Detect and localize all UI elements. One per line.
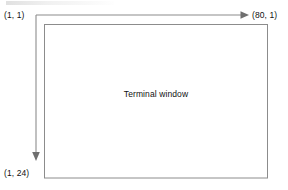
arrowhead-down-icon <box>32 152 40 161</box>
terminal-window-border <box>45 25 268 179</box>
terminal-coordinate-diagram: (1, 1) (80, 1) (1, 24) Terminal window <box>0 0 288 190</box>
terminal-window-label: Terminal window <box>44 89 268 100</box>
columns-axis-arrow <box>36 11 249 19</box>
coordinate-label-top-right: (80, 1) <box>252 10 277 20</box>
rows-axis-arrow <box>32 15 40 161</box>
coordinate-label-origin: (1, 1) <box>4 10 24 20</box>
arrowhead-right-icon <box>241 11 250 19</box>
coordinate-label-bottom-left: (1, 24) <box>4 168 29 178</box>
terminal-window-rectangle <box>45 25 268 179</box>
